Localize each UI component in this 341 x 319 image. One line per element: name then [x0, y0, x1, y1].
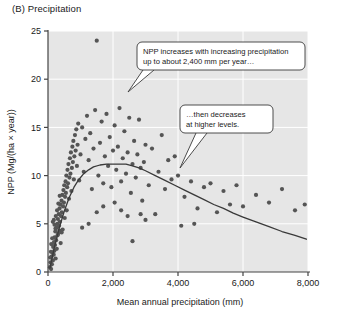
- x-tick-label: 2,000: [102, 278, 125, 288]
- y-tick-label: 20: [31, 74, 41, 84]
- y-axis-title: NPP (Mg/(ha × year)): [6, 109, 16, 195]
- callout-decrease-line: …then decreases: [186, 110, 246, 119]
- x-axis-tick-labels: 02,0004,0006,0008,000: [45, 278, 319, 288]
- callout-increase-line: up to about 2,400 mm per year…: [143, 57, 254, 66]
- y-tick-label: 10: [31, 171, 41, 181]
- x-tick-label: 6,000: [232, 278, 255, 288]
- x-tick-label: 0: [45, 278, 50, 288]
- y-tick-label: 15: [31, 123, 41, 133]
- y-tick-label: 5: [36, 219, 41, 229]
- x-tick-label: 8,000: [297, 278, 320, 288]
- x-axis-title: Mean annual precipitation (mm): [117, 297, 244, 307]
- x-tick-label: 4,000: [167, 278, 190, 288]
- precipitation-npp-scatter-chart: 02,0004,0006,0008,000 0510152025 Mean an…: [0, 0, 341, 319]
- callout-increase-line: NPP increases with increasing precipitat…: [143, 47, 288, 56]
- y-tick-label: 25: [31, 26, 41, 36]
- y-axis-tick-labels: 0510152025: [31, 26, 41, 277]
- callout-decrease-line: at higher levels.: [186, 120, 239, 129]
- y-tick-label: 0: [36, 267, 41, 277]
